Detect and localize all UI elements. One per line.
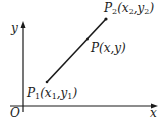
point-p2-dot	[104, 17, 107, 20]
coordinate-diagram: y x O P1(x1,y1) P(x,y) P2(x2,y2)	[0, 0, 167, 124]
point-p2-label: P2(x2,y2)	[103, 1, 154, 16]
point-p1-coord-c: )	[71, 86, 77, 100]
point-p-dot	[86, 38, 89, 41]
point-p2-coord-a: (x	[117, 1, 129, 15]
point-p1-label: P1(x1,y1)	[26, 86, 77, 101]
y-axis-arrow	[21, 21, 26, 28]
y-axis-label: y	[10, 21, 18, 35]
origin-label: O	[10, 106, 20, 120]
point-p-coords: (x,y)	[99, 41, 126, 55]
x-axis-label: x	[150, 106, 157, 120]
point-p-label: P(x,y)	[90, 41, 126, 55]
point-p1-dot	[46, 81, 49, 84]
point-p2-coord-c: )	[148, 1, 154, 15]
point-p1-coord-a: (x	[40, 86, 52, 100]
point-p2-coord-b: ,y	[134, 1, 145, 15]
point-p1-coord-b: ,y	[57, 86, 68, 100]
